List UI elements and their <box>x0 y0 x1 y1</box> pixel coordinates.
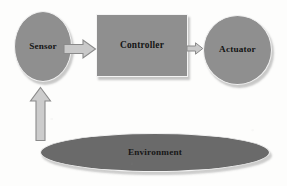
node-actuator[interactable]: Actuator <box>203 15 272 85</box>
node-sensor-label: Sensor <box>29 42 57 51</box>
arrow-up-icon-environment-to-sensor <box>29 86 53 142</box>
node-environment[interactable]: Environment <box>40 133 270 172</box>
node-environment-label: Environment <box>128 148 182 157</box>
node-controller-label: Controller <box>120 41 164 50</box>
node-actuator-label: Actuator <box>219 45 256 54</box>
arrow-right-icon-sensor-to-controller <box>63 38 97 60</box>
diagram-canvas: Sensor Controller Actuator Environment <box>0 0 287 186</box>
arrow-right-icon-controller-to-actuator <box>186 41 204 56</box>
node-controller[interactable]: Controller <box>96 14 188 77</box>
